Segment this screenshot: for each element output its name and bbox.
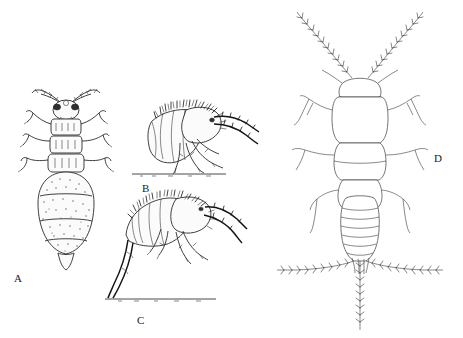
figure-b-head-thorax (182, 107, 222, 143)
figure-label-b: B (142, 182, 150, 194)
figure-c-furcula (108, 240, 133, 298)
figure-d-thorax-segment-2 (334, 143, 386, 180)
figure-a-head (53, 100, 79, 120)
figure-a-abdomen (38, 172, 94, 270)
figure-d-left-cercus-setae (281, 259, 348, 274)
figure-d-thorax-segment-1 (332, 97, 388, 143)
figure-a-thorax-segment-1 (51, 119, 81, 135)
figure-d-antennae (297, 12, 423, 86)
figure-d-terminal-filaments (277, 258, 443, 330)
figure-d-specimen (277, 12, 443, 330)
figure-b-specimen (132, 100, 259, 176)
figure-a-thorax-segment-3 (48, 154, 84, 172)
figure-d-head (339, 78, 381, 99)
figure-label-a: A (14, 272, 22, 284)
plate-canvas (0, 0, 463, 338)
figure-label-c: C (137, 314, 145, 326)
figure-d-right-cercus-setae (372, 259, 439, 274)
figure-a-specimen (18, 89, 114, 270)
figure-c-specimen (105, 190, 247, 301)
figure-a-thorax-segment-2 (50, 136, 82, 153)
illustration-plate: A B C D (0, 0, 463, 338)
figure-label-d: D (434, 152, 442, 164)
figure-d-abdomen (341, 196, 380, 261)
